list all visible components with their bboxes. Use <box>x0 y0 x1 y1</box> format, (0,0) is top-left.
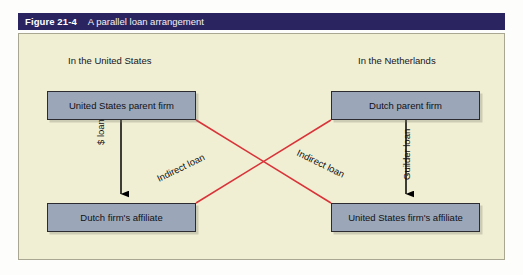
region-label-netherlands: In the Netherlands <box>358 55 436 66</box>
edge-label-dollar-loan: $ loan <box>95 119 106 145</box>
entity-box-us-parent[interactable]: United States parent firm <box>47 91 196 120</box>
entity-box-us-affiliate[interactable]: United States firm's affiliate <box>331 203 480 232</box>
edge-label-guilder-loan: Guilder loan <box>401 129 412 180</box>
figure-number: Figure 21-4 <box>25 16 77 27</box>
entity-box-dutch-affiliate[interactable]: Dutch firm's affiliate <box>47 203 196 232</box>
figure-caption: A parallel loan arrangement <box>88 16 204 27</box>
region-label-united-states: In the United States <box>68 55 151 66</box>
entity-label-dutch-affiliate: Dutch firm's affiliate <box>80 212 162 223</box>
figure-title-bar: Figure 21-4 A parallel loan arrangement <box>18 13 505 30</box>
entity-box-dutch-parent[interactable]: Dutch parent firm <box>331 91 480 120</box>
entity-label-us-affiliate: United States firm's affiliate <box>348 212 463 223</box>
entity-label-dutch-parent: Dutch parent firm <box>369 100 442 111</box>
figure-container: Figure 21-4 A parallel loan arrangement … <box>0 0 523 275</box>
entity-label-us-parent: United States parent firm <box>69 100 174 111</box>
